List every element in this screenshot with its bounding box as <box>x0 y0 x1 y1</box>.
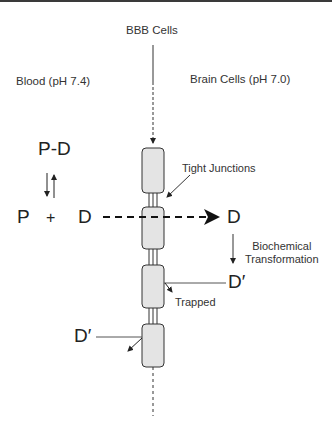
protein-label: P <box>17 206 30 228</box>
biochem-line-2: Transformation <box>245 253 319 266</box>
metabolite-left-label: D′ <box>74 325 91 347</box>
blood-region-label: Blood (pH 7.4) <box>16 75 90 87</box>
efflux-arrow <box>128 338 142 351</box>
biochemical-transformation-label: Biochemical Transformation <box>245 240 319 266</box>
metabolite-right-label: D′ <box>228 271 245 293</box>
bbb-cell-3 <box>142 265 164 308</box>
plus-label: + <box>46 209 55 227</box>
drug-left-label: D <box>78 206 92 228</box>
tight-junctions-label: Tight Junctions <box>182 162 256 174</box>
trapped-label: Trapped <box>175 296 216 308</box>
complex-label: P-D <box>38 138 71 160</box>
biochem-line-1: Biochemical <box>245 240 319 253</box>
bbb-cell-4 <box>142 324 164 367</box>
tight-junctions-pointer <box>167 175 190 197</box>
equilibrium-arrows <box>47 173 54 198</box>
bbb-cell-2 <box>142 207 164 249</box>
brain-region-label: Brain Cells (pH 7.0) <box>190 73 290 85</box>
bbb-cell-1 <box>142 148 164 193</box>
bbb-cells-label: BBB Cells <box>126 24 178 36</box>
drug-right-label: D <box>227 206 241 228</box>
trapped-arrow <box>165 283 172 292</box>
